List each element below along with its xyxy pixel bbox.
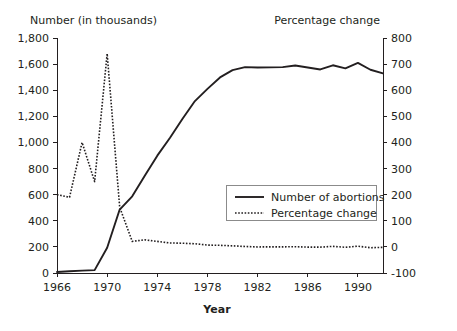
- y2-tick-label: 800: [391, 32, 412, 45]
- y-axis-title: Number (in thousands): [30, 14, 157, 27]
- y-tick-label: 1,800: [18, 32, 50, 45]
- y2-tick-label: -100: [391, 267, 416, 280]
- x-tick-label: 1982: [244, 281, 272, 294]
- y-tick-label: 200: [28, 241, 49, 254]
- x-tick-label: 1970: [93, 281, 121, 294]
- y2-tick-label: 600: [391, 84, 412, 97]
- chart-svg: 02004006008001,0001,2001,4001,6001,800-1…: [0, 0, 457, 331]
- chart-container: 02004006008001,0001,2001,4001,6001,800-1…: [0, 0, 457, 331]
- series-line-0: [57, 63, 383, 272]
- y-tick-label: 1,400: [18, 84, 50, 97]
- x-tick-label: 1974: [143, 281, 171, 294]
- y2-tick-label: 700: [391, 58, 412, 71]
- x-tick-label: 1986: [294, 281, 322, 294]
- y-tick-label: 1,600: [18, 58, 50, 71]
- y-axis-left: 02004006008001,0001,2001,4001,6001,800: [18, 32, 58, 280]
- y-tick-label: 0: [42, 267, 49, 280]
- y2-axis-title: Percentage change: [274, 14, 380, 27]
- y-tick-label: 1,000: [18, 136, 50, 149]
- y2-tick-label: 100: [391, 215, 412, 228]
- y-axis-right: -1000100200300400500600700800: [383, 32, 416, 280]
- y-tick-label: 1,200: [18, 110, 50, 123]
- y2-tick-label: 200: [391, 189, 412, 202]
- x-axis-title: Year: [202, 303, 231, 316]
- x-tick-label: 1966: [43, 281, 71, 294]
- y-tick-label: 600: [28, 189, 49, 202]
- y2-tick-label: 0: [391, 241, 398, 254]
- x-tick-label: 1978: [193, 281, 221, 294]
- y2-tick-label: 400: [391, 136, 412, 149]
- y-tick-label: 800: [28, 163, 49, 176]
- y-tick-label: 400: [28, 215, 49, 228]
- chart-series: [57, 54, 383, 272]
- legend-label-1: Percentage change: [271, 207, 377, 220]
- legend-label-0: Number of abortions: [271, 191, 385, 204]
- chart-legend: Number of abortionsPercentage change: [226, 185, 385, 220]
- y2-tick-label: 500: [391, 110, 412, 123]
- x-axis: 1966197019741978198219861990: [43, 273, 372, 294]
- y2-tick-label: 300: [391, 163, 412, 176]
- x-tick-label: 1990: [344, 281, 372, 294]
